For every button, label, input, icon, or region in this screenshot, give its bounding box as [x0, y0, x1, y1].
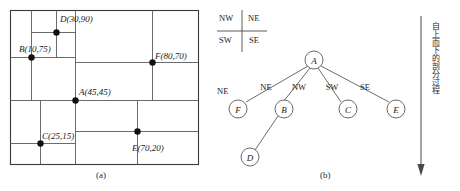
tree-node-label-D: D — [246, 153, 254, 163]
point-C — [37, 140, 43, 146]
tree-side-label-ne: NE — [217, 86, 228, 96]
legend-label-ne: NE — [248, 13, 259, 23]
tree-node-label-C: C — [345, 105, 352, 115]
edge-label-SW: SW — [326, 82, 339, 92]
figure-root: D(30,90) B(10,75) F(80,70) A(45,45) C(25… — [0, 0, 460, 191]
direction-arrow — [414, 14, 428, 182]
edge-label-NE: NE — [260, 82, 271, 92]
point-D — [53, 29, 59, 35]
point-B — [28, 54, 34, 60]
arrow-head — [417, 164, 424, 176]
panel-a-diagram: D(30,90) B(10,75) F(80,70) A(45,45) C(25… — [0, 0, 210, 175]
point-label-C: C(25,15) — [42, 131, 74, 141]
tree-node-label-E: E — [392, 105, 399, 115]
tree-edges — [246, 66, 389, 150]
panel-b-tree: A F B C E D NE NW SW SE — [208, 40, 420, 170]
edge-label-NW: NW — [292, 82, 306, 92]
edge-B-D — [255, 116, 278, 150]
tree-node-label-F: F — [234, 105, 241, 115]
point-A — [72, 97, 78, 103]
point-label-A: A(45,45) — [78, 87, 111, 97]
panel-b-caption: (b) — [320, 170, 331, 180]
tree-node-label-B: B — [281, 105, 287, 115]
vertical-annotation-text: 自上而下的剖分过程 — [430, 22, 439, 94]
panel-a-point-labels: D(30,90) B(10,75) F(80,70) A(45,45) C(25… — [19, 14, 187, 153]
point-label-B: B(10,75) — [19, 44, 51, 54]
tree-node-label-A: A — [310, 56, 317, 66]
legend-label-nw: NW — [219, 13, 233, 23]
point-label-E: E(70,20) — [131, 143, 164, 153]
panel-a-caption: (a) — [96, 170, 106, 180]
edge-label-SE: SE — [360, 82, 370, 92]
tree-node-labels: A F B C E D — [234, 56, 399, 163]
point-E — [134, 128, 140, 134]
point-label-D: D(30,90) — [59, 14, 93, 24]
point-label-F: F(80,70) — [154, 51, 187, 61]
